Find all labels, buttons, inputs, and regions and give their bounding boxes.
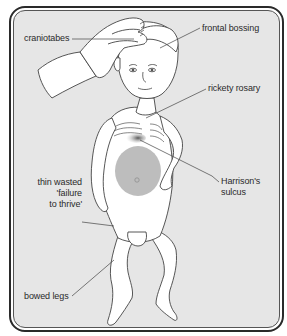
label-failure-line3: to thrive' [24,199,82,210]
protruding-abdomen [115,146,161,196]
label-harrisons-sulcus: Harrison's sulcus [221,176,260,198]
label-bowed-legs: bowed legs [24,291,69,302]
label-frontal-bossing: frontal bossing [202,23,259,34]
label-failure-to-thrive: thin wasted 'failure to thrive' [24,177,82,210]
label-harrisons-line1: Harrison's [221,176,260,187]
leader-bowed-legs [72,260,114,296]
rickets-figure-illustration [0,0,287,336]
label-craniotabes: craniotabes [24,33,69,44]
label-rickety-rosary: rickety rosary [208,83,260,94]
label-failure-line2: 'failure [24,188,82,199]
leader-failure-to-thrive [82,222,114,226]
label-harrisons-line2: sulcus [221,187,260,198]
label-failure-line1: thin wasted [24,177,82,188]
